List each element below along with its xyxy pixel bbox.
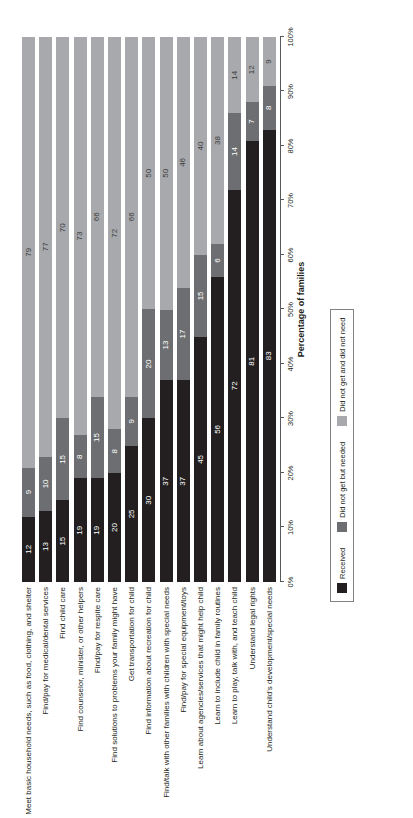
axis-tick-label: 10%	[286, 520, 295, 535]
bar-segment-2: 79	[22, 37, 35, 468]
bar-value-label: 9	[128, 419, 136, 423]
bar-value-label: 79	[25, 248, 33, 257]
bar-value-label: 15	[197, 291, 205, 300]
axis-tick-label: 20%	[286, 465, 295, 480]
bar-segment-2: 40	[194, 37, 207, 255]
bar-value-label: 9	[25, 490, 33, 494]
legend-item-0[interactable]: Received	[337, 548, 347, 593]
bar-segment-2: 73	[74, 37, 87, 435]
bar-segment-2: 38	[211, 37, 224, 244]
bar-value-label: 13	[42, 542, 50, 551]
bar-value-label: 77	[42, 242, 50, 251]
bar-segment-0: 13	[39, 511, 52, 582]
bar-segment-1: 8	[108, 429, 121, 473]
axis-tick-label: 90%	[286, 84, 295, 99]
category-label: Get transportation for child	[125, 587, 138, 818]
axis-tick-label: 100%	[286, 27, 295, 46]
bar-value-label: 50	[145, 169, 153, 178]
axis-tick	[280, 145, 284, 146]
bar-value-label: 17	[179, 330, 187, 339]
bar-row: Learn to include child in family routine…	[211, 37, 224, 582]
bar-segment-0: 19	[74, 478, 87, 582]
bar-value-label: 12	[25, 545, 33, 554]
bar-value-label: 73	[76, 231, 84, 240]
bar-segment-0: 20	[108, 473, 121, 582]
bar-row: Learn about agencies/services that might…	[194, 37, 207, 582]
bar-segment-1: 6	[211, 244, 224, 277]
axis-tick	[280, 418, 284, 419]
legend-item-2[interactable]: Did not get and did not need	[337, 318, 347, 426]
bar-value-label: 45	[197, 455, 205, 464]
axis-tick-label: 80%	[286, 138, 295, 153]
bar-row: Find/pay for medical/dental services1310…	[39, 37, 52, 582]
bar-segment-0: 15	[56, 500, 69, 582]
axis-tick	[280, 581, 284, 582]
bar-segment-1: 9	[125, 397, 138, 446]
chart-legend: ReceivedDid not get but neededDid not ge…	[330, 309, 354, 602]
bar-row: Learn to play, talk with, and teach chil…	[228, 37, 241, 582]
bar-row: Find/pay for respite care191566	[91, 37, 104, 582]
category-label: Find information about recreation for ch…	[142, 587, 155, 818]
axis-tick	[280, 91, 284, 92]
x-axis-title: Percentage of families	[296, 37, 306, 582]
bar-segment-0: 72	[228, 190, 241, 582]
bar-value-label: 72	[111, 229, 119, 238]
bar-segment-2: 50	[142, 37, 155, 310]
bar-segment-1: 17	[177, 288, 190, 381]
axis-tick-label: 30%	[286, 411, 295, 426]
bar-value-label: 25	[128, 509, 136, 518]
bar-row: Find child care151570	[56, 37, 69, 582]
category-label: Find/pay for respite care	[91, 587, 104, 818]
bar-row: Get transportation for child25966	[125, 37, 138, 582]
bar-value-label: 8	[265, 106, 273, 110]
bar-value-label: 15	[93, 433, 101, 442]
bar-value-label: 30	[145, 496, 153, 505]
bar-value-label: 72	[231, 381, 239, 390]
bar-segment-0: 81	[246, 141, 259, 582]
legend-label: Received	[338, 548, 347, 579]
legend-item-1[interactable]: Did not get but needed	[337, 442, 347, 532]
bar-value-label: 6	[214, 258, 222, 262]
axis-tick	[280, 527, 284, 528]
bar-row: Understand legal rights81712	[246, 37, 259, 582]
bar-row: Find counselor, minister, or other helpe…	[74, 37, 87, 582]
category-label: Find/talk with other families with child…	[160, 587, 173, 818]
bar-row: Meet basic household needs, such as food…	[22, 37, 35, 582]
bar-segment-0: 19	[91, 478, 104, 582]
category-label: Meet basic household needs, such as food…	[22, 587, 35, 818]
bar-segment-0: 30	[142, 419, 155, 583]
bar-segment-2: 14	[228, 37, 241, 113]
bar-value-label: 37	[162, 477, 170, 486]
axis-tick-label: 70%	[286, 193, 295, 208]
bar-value-label: 56	[214, 425, 222, 434]
bar-value-label: 9	[265, 59, 273, 63]
category-label: Find solutions to problems your family m…	[108, 587, 121, 818]
bar-segment-1: 15	[56, 419, 69, 501]
bar-value-label: 8	[111, 449, 119, 453]
bar-value-label: 8	[76, 454, 84, 458]
axis-tick	[280, 200, 284, 201]
bar-segment-1: 15	[91, 397, 104, 479]
bar-value-label: 14	[231, 147, 239, 156]
category-label: Find/pay for special equipment/toys	[177, 587, 190, 818]
bar-value-label: 19	[93, 526, 101, 535]
bar-segment-2: 66	[125, 37, 138, 397]
bar-row: Understand child's development/special n…	[263, 37, 276, 582]
category-label: Find child care	[56, 587, 69, 818]
bar-segment-2: 72	[108, 37, 121, 429]
plot-area: Meet basic household needs, such as food…	[22, 37, 280, 582]
bar-segment-2: 77	[39, 37, 52, 457]
bar-value-label: 40	[197, 142, 205, 151]
axis-tick-label: 60%	[286, 247, 295, 262]
bar-value-label: 12	[248, 65, 256, 74]
bar-segment-0: 25	[125, 446, 138, 582]
axis-tick	[280, 363, 284, 364]
bar-segment-0: 83	[263, 130, 276, 582]
category-label: Learn to include child in family routine…	[211, 587, 224, 818]
bar-row: Find/pay for special equipment/toys37174…	[177, 37, 190, 582]
bar-segment-2: 50	[160, 37, 173, 310]
bar-value-label: 15	[59, 455, 67, 464]
legend-swatch-icon	[337, 583, 347, 593]
bar-value-label: 7	[248, 119, 256, 123]
